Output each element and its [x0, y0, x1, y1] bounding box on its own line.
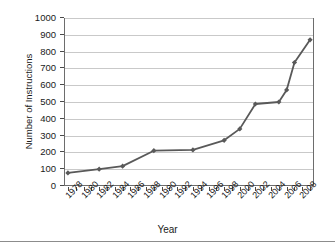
series-line — [68, 40, 310, 173]
x-axis-title: Year — [0, 224, 335, 235]
data-series-line — [0, 0, 335, 249]
data-point-marker — [97, 167, 102, 172]
bottom-divider — [0, 241, 335, 242]
data-point-marker — [190, 147, 195, 152]
data-point-marker — [65, 170, 70, 175]
chart-figure: Number of Instructions 01002003004005006… — [0, 0, 335, 249]
